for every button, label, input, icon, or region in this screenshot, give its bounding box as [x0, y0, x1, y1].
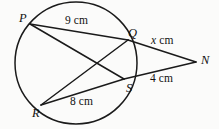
vertex-label-S: S: [126, 82, 132, 95]
vertex-label-N: N: [201, 54, 209, 67]
vertex-label-P: P: [19, 12, 27, 25]
vertex-label-Q: Q: [128, 27, 137, 40]
measure-label-PQ: 9 cm: [65, 15, 88, 27]
circle-geometry-figure: P Q S R N 9 cm x cm 4 cm 8 cm: [0, 0, 219, 129]
measure-unit-cm: cm: [159, 34, 173, 46]
vertex-label-R: R: [32, 107, 40, 120]
measure-label-RS: 8 cm: [70, 96, 93, 108]
measure-label-QN: x cm: [151, 35, 173, 47]
measure-label-SN: 4 cm: [150, 73, 173, 85]
measure-variable-x: x: [151, 34, 156, 46]
